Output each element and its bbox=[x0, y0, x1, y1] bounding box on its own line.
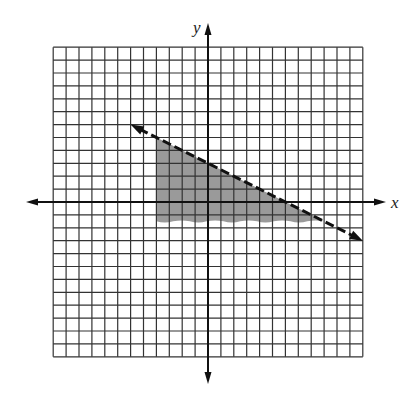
line-arrow-left-icon bbox=[131, 125, 145, 135]
x-axis-right-arrow-icon bbox=[374, 199, 386, 206]
x-axis-label: x bbox=[390, 193, 399, 212]
y-axis-label: y bbox=[191, 18, 201, 37]
y-axis-down-arrow-icon bbox=[205, 372, 212, 384]
x-axis-left-arrow-icon bbox=[26, 199, 38, 206]
line-arrow-right-icon bbox=[349, 231, 363, 241]
coordinate-plane: y x bbox=[0, 0, 418, 405]
y-axis-up-arrow-icon bbox=[205, 23, 212, 35]
